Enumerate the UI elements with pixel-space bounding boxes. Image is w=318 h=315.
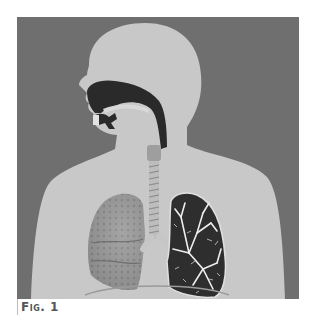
respiratory-diagram [17, 17, 299, 299]
trachea [147, 145, 161, 239]
figure-panel [17, 17, 299, 299]
caption-rule [17, 299, 18, 315]
figure-caption: Fig. 1 [21, 300, 59, 314]
